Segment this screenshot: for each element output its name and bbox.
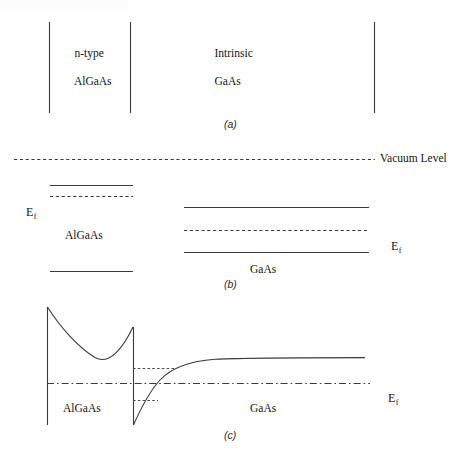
panel-b-fermi-symbol-right: E bbox=[391, 239, 398, 253]
panel-a-left-material-line1: n-type bbox=[75, 47, 104, 59]
panel-c-gaas-label: GaAs bbox=[250, 401, 276, 415]
panel-b-gaas-label: GaAs bbox=[250, 262, 276, 276]
panel-b-fermi-label-right: Ef bbox=[379, 224, 401, 269]
panel-c-caption: (c) bbox=[224, 429, 236, 441]
vacuum-level-label: Vacuum Level bbox=[380, 152, 447, 164]
panel-c-algaas-label: AlGaAs bbox=[63, 401, 101, 415]
band-diagram-figure: n-type AlGaAs Intrinsic GaAs (a) Vacuum … bbox=[0, 0, 463, 456]
panel-c-fermi-symbol: E bbox=[388, 391, 395, 405]
panel-c-fermi-label: Ef bbox=[376, 376, 398, 421]
panel-b-fermi-label-left: Ef bbox=[14, 190, 36, 235]
panel-c-fermi-subscript: f bbox=[396, 398, 399, 407]
panel-b-fermi-symbol-left: E bbox=[26, 205, 33, 219]
panel-a-right-material-line2: GaAs bbox=[215, 75, 241, 87]
panel-b-caption: (b) bbox=[224, 278, 237, 290]
panel-a-right-material-label: Intrinsic GaAs bbox=[203, 32, 253, 102]
panel-b-fermi-subscript-right: f bbox=[399, 246, 402, 255]
algaas-band-bending-curve bbox=[48, 307, 134, 360]
panel-a-caption: (a) bbox=[224, 118, 237, 130]
panel-a-left-material-label: n-type AlGaAs bbox=[63, 32, 112, 102]
panel-b-algaas-label: AlGaAs bbox=[65, 228, 103, 242]
panel-a-left-material-line2: AlGaAs bbox=[74, 75, 112, 87]
panel-b-fermi-subscript-left: f bbox=[34, 212, 37, 221]
panel-a-right-material-line1: Intrinsic bbox=[215, 47, 253, 59]
